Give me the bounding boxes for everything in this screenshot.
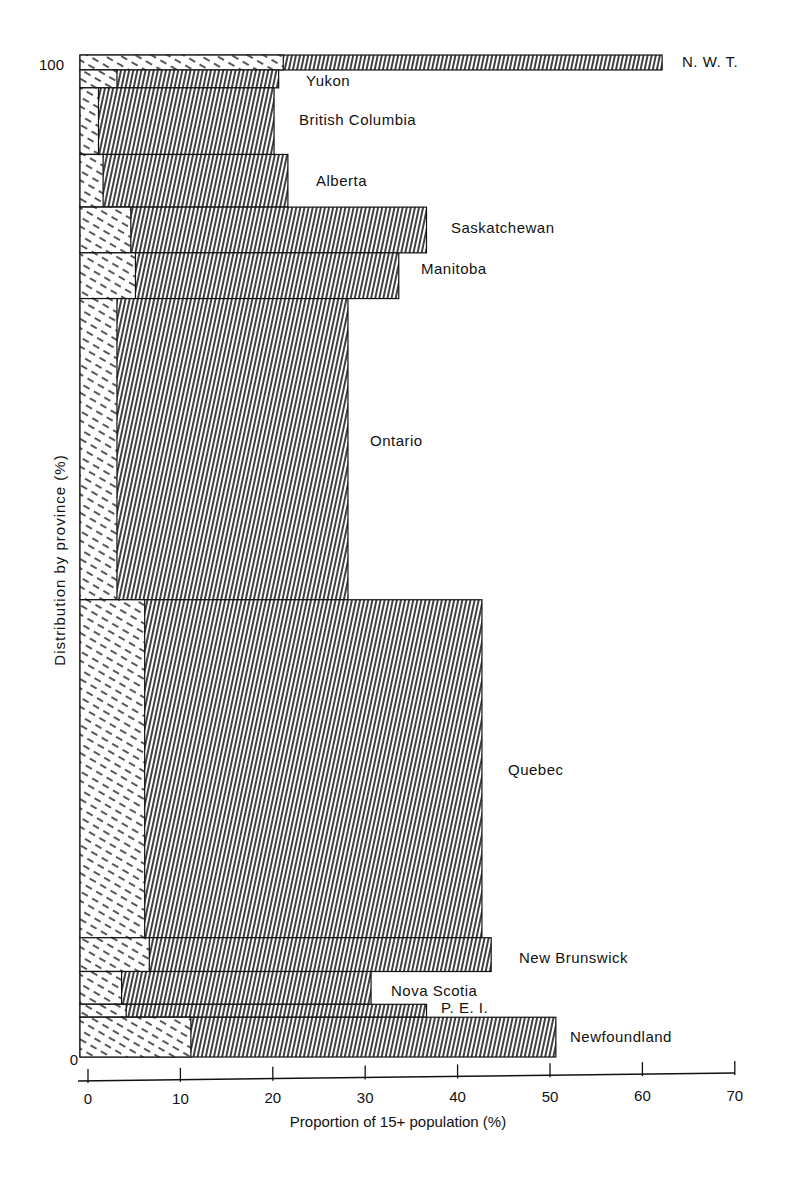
y-axis-title: Distribution by province (%) [51,454,68,665]
x-tick-label: 50 [542,1088,559,1105]
x-tick-label: 0 [84,1090,92,1107]
bar-inner-segment [80,1004,126,1017]
x-tick-label: 70 [726,1087,743,1104]
bar-inner-segment [80,55,283,70]
bar-label: Quebec [508,761,564,778]
x-tick-label: 40 [449,1088,466,1105]
bar-outer-segment [80,972,371,1005]
bar-label: Ontario [370,432,423,449]
bar-inner-segment [80,154,103,207]
x-tick-label: 60 [634,1087,651,1104]
bar-inner-segment [80,253,135,299]
bar-label: N. W. T. [682,53,738,70]
bar-inner-segment [80,299,117,600]
bar-outer-segment [80,1004,427,1017]
bar-outer-segment [80,154,288,207]
bar-outer-segment [80,207,427,253]
bar-label: British Columbia [299,111,416,128]
bar-inner-segment [80,972,122,1005]
bar-label: New Brunswick [519,949,628,966]
bar-inner-segment [80,88,98,155]
x-axis-line [78,1073,735,1081]
y-tick-100: 100 [39,56,64,73]
bar-inner-segment [80,938,149,972]
bar-label: Newfoundland [570,1028,672,1045]
bar-label: Nova Scotia [391,982,478,999]
bar-label: Yukon [306,72,350,89]
bar-label: Saskatchewan [451,219,555,236]
y-tick-0: 0 [70,1051,78,1068]
bar-inner-segment [80,600,145,938]
bar-label: Alberta [316,172,367,189]
bar-inner-segment [80,70,117,88]
bar-label: Manitoba [421,260,487,277]
bars-group [80,55,662,1057]
x-tick-label: 10 [172,1090,189,1107]
mosaic-chart: N. W. T.YukonBritish ColumbiaAlbertaSask… [0,0,787,1194]
bar-inner-segment [80,207,131,253]
bar-outer-segment [80,299,348,600]
bar-label: P. E. I. [441,999,488,1016]
x-axis-title: Proportion of 15+ population (%) [290,1113,506,1130]
x-tick-label: 20 [264,1089,281,1106]
bar-inner-segment [80,1017,191,1057]
x-axis-ticks: 010203040506070 [84,1061,743,1107]
x-tick-label: 30 [357,1089,374,1106]
bar-outer-segment [80,88,274,155]
